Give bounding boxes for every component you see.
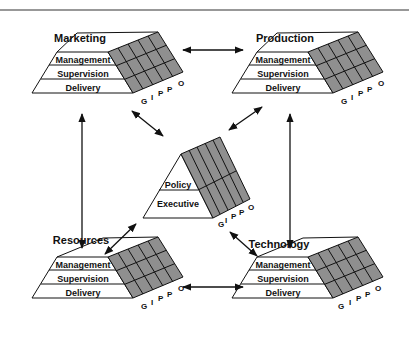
svg-text:P: P: [167, 290, 173, 299]
block-executive-center: Policy Executive G I P P O: [143, 137, 254, 229]
svg-text:P: P: [356, 294, 362, 303]
layer-supervision: Supervision: [257, 274, 309, 284]
svg-text:O: O: [378, 79, 384, 88]
svg-text:P: P: [167, 85, 173, 94]
layer-executive: Executive: [157, 199, 199, 209]
gippo-diagram: Marketing Management Supervision Deliver…: [0, 0, 409, 356]
block-title: Marketing: [54, 32, 106, 44]
block-title: Production: [256, 32, 314, 44]
block-production: Production Management Supervision Delive…: [232, 32, 384, 106]
svg-text:P: P: [231, 212, 237, 221]
layer-supervision: Supervision: [57, 274, 109, 284]
svg-text:O: O: [178, 284, 184, 293]
layer-delivery: Delivery: [265, 83, 300, 93]
svg-text:I: I: [225, 216, 227, 225]
layer-management: Management: [255, 260, 310, 270]
svg-text:G: G: [141, 302, 147, 311]
layer-management: Management: [55, 260, 110, 270]
layer-policy: Policy: [165, 180, 192, 190]
svg-text:I: I: [349, 298, 351, 307]
svg-text:G: G: [218, 220, 224, 229]
block-title: Technology: [249, 238, 311, 250]
svg-text:O: O: [375, 284, 381, 293]
arrow-marketing-executive: [132, 111, 163, 136]
block-title: Resources: [53, 234, 109, 246]
block-technology: Technology Management Supervision Delive…: [232, 237, 383, 311]
layer-delivery: Delivery: [65, 83, 100, 93]
svg-text:O: O: [178, 79, 184, 88]
svg-text:P: P: [158, 89, 164, 98]
layer-management: Management: [255, 55, 310, 65]
svg-text:P: P: [365, 290, 371, 299]
svg-text:G: G: [338, 302, 344, 311]
layer-delivery: Delivery: [265, 288, 300, 298]
svg-text:I: I: [151, 93, 153, 102]
layer-management: Management: [55, 55, 110, 65]
svg-text:G: G: [141, 97, 147, 106]
block-resources: Resources Management Supervision Deliver…: [32, 234, 184, 311]
svg-text:P: P: [358, 89, 364, 98]
svg-text:I: I: [351, 93, 353, 102]
svg-text:I: I: [151, 298, 153, 307]
block-marketing: Marketing Management Supervision Deliver…: [32, 32, 184, 106]
svg-text:P: P: [367, 85, 373, 94]
layer-supervision: Supervision: [257, 69, 309, 79]
svg-text:O: O: [248, 203, 254, 212]
layer-supervision: Supervision: [57, 69, 109, 79]
svg-text:P: P: [158, 294, 164, 303]
layer-delivery: Delivery: [65, 288, 100, 298]
svg-text:P: P: [239, 208, 245, 217]
svg-text:G: G: [341, 97, 347, 106]
arrow-production-executive: [229, 107, 262, 130]
